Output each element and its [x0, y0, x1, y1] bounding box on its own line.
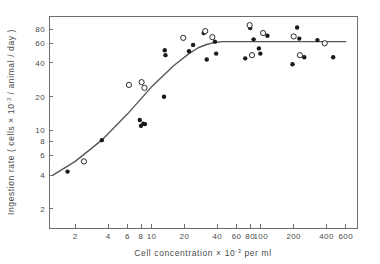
data-point-open: [261, 30, 266, 35]
data-point-filled: [162, 95, 166, 99]
data-point-open: [203, 29, 208, 34]
data-point-filled: [295, 25, 299, 29]
data-point-filled: [290, 62, 294, 66]
y-tick-label: 20: [35, 93, 45, 102]
data-point-filled: [331, 55, 335, 59]
y-tick-label: 60: [35, 39, 45, 48]
y-tick-label: 40: [35, 59, 45, 68]
x-tick-label: 8: [139, 232, 144, 241]
x-axis-title: Cell concentration × 10-3 per ml: [134, 248, 271, 258]
x-axis-ticks: [75, 224, 346, 228]
data-point-filled: [205, 57, 209, 61]
data-point-filled: [187, 49, 191, 53]
y-tick-label: 6: [40, 151, 45, 160]
data-point-filled: [191, 43, 195, 47]
data-point-filled: [138, 118, 142, 122]
x-tick-label: 40: [212, 232, 222, 241]
data-point-filled: [65, 169, 69, 173]
y-tick-label: 10: [35, 126, 45, 135]
y-tick-label: 2: [40, 205, 45, 214]
x-tick-label: 4: [106, 232, 111, 241]
x-tick-label: 600: [339, 232, 354, 241]
x-tick-label: 10: [147, 232, 157, 241]
data-point-open: [142, 85, 147, 90]
x-tick-label: 200: [286, 232, 301, 241]
fitted-curve: [53, 42, 346, 175]
data-point-open: [291, 34, 296, 39]
x-axis-tick-labels: 24681020406080100200400600: [73, 232, 353, 241]
data-point-filled: [100, 138, 104, 142]
data-point-filled: [163, 53, 167, 57]
data-point-filled: [163, 48, 167, 52]
y-tick-label: 4: [40, 171, 45, 180]
y-axis-ticks: [49, 29, 53, 209]
y-axis-title: Ingestion rate ( cells × 10-3 / animal /…: [6, 29, 16, 215]
data-point-filled: [297, 36, 301, 40]
data-point-open: [81, 159, 86, 164]
x-tick-label: 2: [73, 232, 78, 241]
x-tick-label: 60: [232, 232, 242, 241]
data-point-filled: [257, 46, 261, 50]
chart-figure: 24681020406080100200400600 2468102040608…: [0, 0, 380, 264]
data-point-filled: [213, 39, 217, 43]
y-tick-label: 8: [40, 137, 45, 146]
fit-curve-path: [53, 42, 346, 175]
data-point-filled: [143, 122, 147, 126]
data-point-open: [139, 80, 144, 85]
data-point-open: [249, 53, 254, 58]
scatter-plot: 24681020406080100200400600 2468102040608…: [0, 0, 380, 264]
data-point-filled: [315, 38, 319, 42]
data-point-open: [247, 23, 252, 28]
x-tick-label: 20: [180, 232, 190, 241]
x-tick-label: 400: [319, 232, 334, 241]
y-axis-tick-labels: 24681020406080: [35, 25, 45, 214]
data-point-open: [210, 35, 215, 40]
axis-frame: [49, 16, 357, 228]
data-point-open: [181, 35, 186, 40]
data-point-open: [297, 53, 302, 58]
data-point-open: [322, 41, 327, 46]
data-point-filled: [243, 56, 247, 60]
data-point-filled: [214, 51, 218, 55]
data-points: [65, 23, 335, 174]
data-point-open: [126, 82, 131, 87]
y-tick-label: 80: [35, 25, 45, 34]
data-point-filled: [258, 51, 262, 55]
data-point-filled: [251, 37, 255, 41]
x-tick-label: 100: [254, 232, 269, 241]
x-tick-label: 6: [125, 232, 130, 241]
